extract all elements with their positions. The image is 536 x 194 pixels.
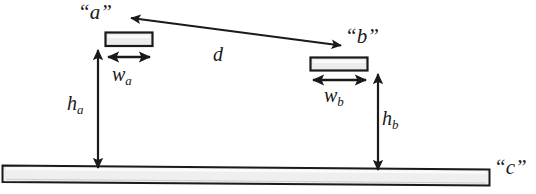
label-width-b: wb (324, 85, 344, 108)
label-height-b: hb (382, 108, 399, 131)
label-height-a: ha (67, 93, 84, 116)
label-width-b-subscript: b (337, 94, 344, 109)
label-height-b-base: h (382, 107, 392, 129)
label-object-b: “b” (345, 26, 379, 47)
label-object-a: “a” (78, 2, 112, 23)
label-object-c: “c” (494, 157, 527, 178)
label-width-b-base: w (324, 84, 337, 106)
plate-b-shape (311, 58, 368, 71)
label-distance-d: d (213, 44, 223, 64)
plate-a-shape (106, 33, 153, 47)
label-height-a-subscript: a (77, 102, 84, 117)
ground-plate-c-shape (3, 166, 490, 186)
diagram-canvas: “a” “b” “c” d wa wb ha hb (0, 0, 536, 194)
label-width-a-subscript: a (125, 73, 132, 88)
label-height-a-base: h (67, 92, 77, 114)
label-height-b-subscript: b (392, 117, 399, 132)
label-width-a: wa (112, 64, 132, 87)
label-width-a-base: w (112, 63, 125, 85)
dimension-line-d (131, 18, 341, 46)
